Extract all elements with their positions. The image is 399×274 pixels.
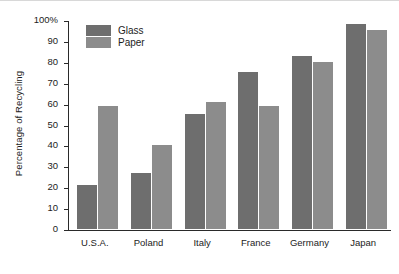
bar-group <box>131 20 172 229</box>
bar-glass-italy <box>185 114 205 229</box>
bar-paper-france <box>259 106 279 229</box>
bar-glass-poland <box>131 173 151 229</box>
y-tick-90: 90 <box>64 42 68 43</box>
bar-glass-japan <box>346 24 366 229</box>
y-tick-label-70: 70 <box>18 77 58 88</box>
x-axis-line <box>68 230 391 231</box>
y-tick-label-60: 60 <box>18 98 58 109</box>
legend-swatch-glass-icon <box>86 25 111 36</box>
y-tick-label-0: 0 <box>18 223 58 234</box>
bar-paper-italy <box>206 102 226 229</box>
y-tick-70: 70 <box>64 84 68 85</box>
category-label-japan: Japan <box>336 237 390 248</box>
bar-glass-germany <box>292 56 312 229</box>
bar-paper-germany <box>313 62 333 229</box>
bar-paper-japan <box>367 30 387 229</box>
plot-area: 0102030405060708090100% U.S.A.PolandItal… <box>68 21 390 230</box>
chart-legend: Glass Paper <box>86 24 145 48</box>
legend-item-paper: Paper <box>86 36 145 48</box>
y-tick-label-10: 10 <box>18 202 58 213</box>
category-label-usa: U.S.A. <box>68 237 122 248</box>
legend-label-glass: Glass <box>118 25 144 36</box>
page-scan-line <box>0 0 399 1</box>
bar-group <box>292 20 333 229</box>
category-label-poland: Poland <box>122 237 176 248</box>
y-tick-20: 20 <box>64 188 68 189</box>
y-tick-0: 0 <box>64 230 68 231</box>
bar-group <box>77 20 118 229</box>
legend-label-paper: Paper <box>118 37 145 48</box>
y-tick-label-90: 90 <box>18 35 58 46</box>
legend-swatch-paper-icon <box>86 37 111 48</box>
bar-group <box>185 20 226 229</box>
bar-paper-usa <box>98 106 118 229</box>
category-label-france: France <box>229 237 283 248</box>
y-tick-label-50: 50 <box>18 119 58 130</box>
y-tick-30: 30 <box>64 167 68 168</box>
y-tick-label-20: 20 <box>18 181 58 192</box>
y-tick-label-30: 30 <box>18 160 58 171</box>
y-tick-label-100: 100% <box>18 14 58 25</box>
y-tick-100: 100% <box>64 21 68 22</box>
y-tick-10: 10 <box>64 209 68 210</box>
bar-glass-france <box>238 72 258 229</box>
y-tick-50: 50 <box>64 126 68 127</box>
category-label-italy: Italy <box>175 237 229 248</box>
y-tick-label-80: 80 <box>18 56 58 67</box>
bar-group <box>346 20 387 229</box>
y-tick-40: 40 <box>64 146 68 147</box>
recycling-bar-chart: Percentage of Recycling 0102030405060708… <box>0 0 399 274</box>
bar-glass-usa <box>77 185 97 229</box>
y-tick-60: 60 <box>64 105 68 106</box>
category-label-germany: Germany <box>283 237 337 248</box>
bar-paper-poland <box>152 145 172 229</box>
bar-group <box>238 20 279 229</box>
y-axis-line <box>68 21 69 231</box>
y-tick-80: 80 <box>64 63 68 64</box>
legend-item-glass: Glass <box>86 24 145 36</box>
y-tick-label-40: 40 <box>18 139 58 150</box>
